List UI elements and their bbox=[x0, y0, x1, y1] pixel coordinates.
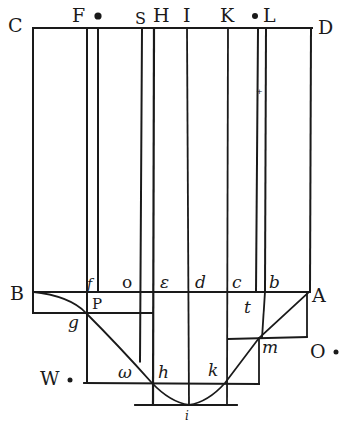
label-s: S bbox=[135, 9, 146, 28]
line-w bbox=[84, 383, 259, 384]
label-c-lower: c bbox=[232, 272, 242, 292]
label-l: L bbox=[263, 4, 276, 26]
label-k-lower: k bbox=[208, 360, 218, 380]
line-h-vertical bbox=[153, 28, 154, 405]
label-i-lower: i bbox=[185, 409, 189, 423]
mark-asterisk: + bbox=[256, 87, 263, 96]
label-d: D bbox=[318, 16, 333, 38]
label-c: C bbox=[8, 14, 23, 36]
line-k-vertical bbox=[227, 28, 228, 405]
label-m: m bbox=[262, 337, 278, 357]
label-i: I bbox=[183, 4, 191, 26]
line-right-vertical bbox=[310, 28, 311, 292]
dot-w bbox=[68, 378, 73, 383]
line-i-vertical bbox=[187, 28, 189, 405]
label-omega: ω bbox=[118, 362, 132, 382]
label-h-lower: h bbox=[158, 362, 169, 382]
dot-f bbox=[94, 12, 101, 19]
label-d-lower: d bbox=[195, 272, 206, 292]
label-a: A bbox=[311, 284, 326, 306]
label-f: F bbox=[72, 4, 85, 26]
label-g: g bbox=[68, 312, 79, 332]
dot-l bbox=[252, 13, 258, 19]
line-l-vertical bbox=[265, 28, 266, 292]
label-b-upper: B bbox=[10, 282, 24, 304]
label-epsilon: ε bbox=[160, 272, 169, 292]
label-f-lower: f bbox=[86, 276, 95, 292]
diagram: C F S H I K L D B A f o ε d c b P t g m … bbox=[0, 0, 343, 429]
label-h: H bbox=[153, 4, 170, 26]
dotted-line-l bbox=[256, 30, 258, 292]
label-b-lower: b bbox=[269, 272, 280, 292]
label-o: o bbox=[122, 272, 132, 292]
label-p: P bbox=[92, 295, 102, 313]
dot-o bbox=[334, 350, 339, 355]
line-b-vertical-lower bbox=[262, 292, 265, 338]
label-k: K bbox=[220, 4, 235, 26]
label-w: W bbox=[40, 367, 60, 389]
label-t: t bbox=[244, 297, 251, 317]
label-o-upper: O bbox=[310, 340, 326, 362]
